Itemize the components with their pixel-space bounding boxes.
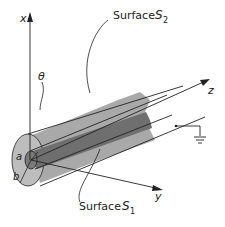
surface-s2-label: Surface [113,9,155,22]
y-axis-label: y [154,190,162,203]
x-axis-arrow [27,12,33,22]
surface-s1-subscript: 1 [130,207,135,216]
surface-s2-leader [87,20,108,93]
surface-s2-symbol: S [155,8,163,22]
x-axis-label: x [19,12,27,25]
radius-b-label: b [13,171,19,182]
z-axis-label: z [207,84,214,97]
theta-leader [40,82,43,110]
surface-s1-symbol: S [122,199,130,213]
ground-connection-dot [175,125,178,128]
radius-a-label: a [16,151,22,162]
surface-s2-subscript: 2 [163,16,168,25]
surface-s1-label: Surface [79,200,121,213]
theta-label: θ [38,70,45,83]
ground-icon [194,137,206,143]
coaxial-cable-diagram: x z y θ a b Surface S 2 Surface S 1 [0,0,225,227]
